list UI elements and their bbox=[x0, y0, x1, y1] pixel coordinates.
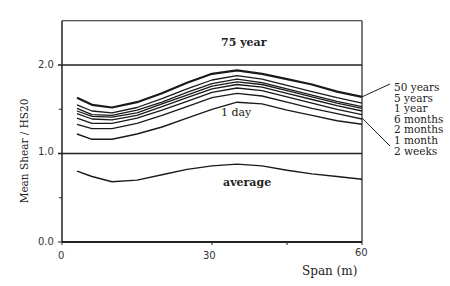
legend-item: 1 month bbox=[394, 135, 443, 146]
annotation-average: average bbox=[223, 176, 271, 189]
legend-item: 2 weeks bbox=[394, 146, 443, 157]
x-tick-30: 30 bbox=[203, 250, 216, 261]
annotation-75-year: 75 year bbox=[221, 36, 266, 49]
legend-item: 50 years bbox=[394, 82, 443, 93]
legend: 50 years 5 years 1 year 6 months 2 month… bbox=[394, 82, 443, 156]
legend-pointers bbox=[362, 84, 390, 146]
series-line-1-day bbox=[77, 102, 362, 139]
y-tick-2: 2.0 bbox=[38, 59, 54, 70]
x-tick-0: 0 bbox=[58, 250, 64, 261]
y-axis-label: Mean Shear / HS20 bbox=[18, 91, 30, 211]
annotation-1-day: 1 day bbox=[221, 106, 251, 119]
series-lines bbox=[77, 70, 362, 182]
x-tick-60: 60 bbox=[355, 247, 368, 258]
series-line-2-months bbox=[77, 85, 362, 120]
plot-frame bbox=[58, 21, 362, 245]
x-axis-label: Span (m) bbox=[302, 264, 357, 278]
series-line-average bbox=[77, 164, 362, 182]
y-tick-1: 1.0 bbox=[38, 146, 54, 157]
y-tick-0: 0.0 bbox=[38, 236, 54, 247]
